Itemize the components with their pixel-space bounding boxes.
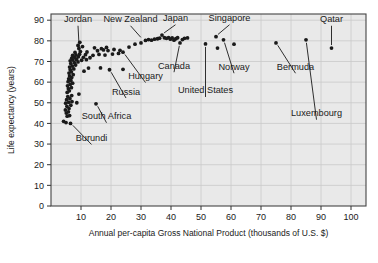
data-point <box>127 45 131 49</box>
data-point <box>176 36 180 40</box>
annotation-label: United States <box>178 85 234 95</box>
data-point <box>82 69 86 73</box>
y-tick-label: 60 <box>34 77 44 87</box>
data-point <box>64 108 68 112</box>
x-tick-label: 60 <box>226 212 236 222</box>
y-tick-label: 10 <box>34 181 44 191</box>
data-point <box>158 36 162 40</box>
data-point <box>304 38 308 42</box>
x-tick-label: 50 <box>196 212 206 222</box>
y-tick-label: 40 <box>34 119 44 129</box>
annotation-label: New Zealand <box>103 14 157 24</box>
x-tick-label: 40 <box>166 212 176 222</box>
data-point <box>118 48 122 52</box>
annotation-label: Qatar <box>320 14 343 24</box>
data-point <box>121 67 125 71</box>
data-point <box>93 46 97 50</box>
data-point <box>139 41 143 45</box>
data-point <box>112 48 116 52</box>
data-point <box>186 36 190 40</box>
annotation-label: Russia <box>112 87 141 97</box>
annotation-label: Luxembourg <box>291 108 342 118</box>
y-tick-label: 70 <box>34 57 44 67</box>
data-point <box>96 49 100 53</box>
chart-canvas: 1020304050607080901000102030405060708090… <box>0 0 378 263</box>
data-point <box>108 68 112 72</box>
data-point <box>330 46 334 50</box>
data-point <box>97 53 101 57</box>
data-point <box>71 54 75 58</box>
annotation-label: Singapore <box>209 13 251 23</box>
data-point <box>222 38 226 42</box>
data-point <box>70 86 74 90</box>
data-point <box>274 41 278 45</box>
data-point <box>204 42 208 46</box>
data-point <box>94 102 98 106</box>
data-point <box>85 58 89 62</box>
annotation-label: Canada <box>158 61 191 71</box>
data-point <box>77 92 81 96</box>
x-tick-label: 70 <box>256 212 266 222</box>
data-point <box>64 121 68 125</box>
y-tick-label: 80 <box>34 36 44 46</box>
data-point <box>69 122 73 126</box>
x-axis-title: Annual per-capita Gross National Product… <box>89 228 329 238</box>
y-tick-label: 20 <box>34 160 44 170</box>
scatter-plot-figure: 1020304050607080901000102030405060708090… <box>0 0 378 263</box>
annotation-label: Hungary <box>128 71 163 81</box>
y-tick-label: 30 <box>34 139 44 149</box>
x-tick-label: 10 <box>76 212 86 222</box>
data-point <box>216 46 220 50</box>
y-tick-label: 0 <box>39 201 44 211</box>
data-point <box>68 114 72 118</box>
data-point <box>133 42 137 46</box>
data-point <box>178 41 182 45</box>
data-point <box>232 42 236 46</box>
y-tick-label: 90 <box>34 15 44 25</box>
x-tick-label: 90 <box>316 212 326 222</box>
data-point <box>111 52 115 56</box>
y-axis-title: Life expectancy (years) <box>6 66 16 154</box>
y-tick-label: 50 <box>34 98 44 108</box>
data-point <box>214 35 218 39</box>
annotation-label: Japan <box>163 13 188 23</box>
data-point <box>73 51 77 55</box>
data-point <box>87 66 91 70</box>
data-point <box>88 56 92 60</box>
data-point <box>66 95 70 99</box>
data-point <box>103 53 107 57</box>
data-point <box>85 50 89 54</box>
annotation-label: Burundi <box>76 133 108 143</box>
data-point <box>81 45 85 49</box>
x-tick-label: 100 <box>343 212 358 222</box>
annotation-label: Jordan <box>64 14 92 24</box>
annotation-label: South Africa <box>82 111 132 121</box>
x-tick-label: 20 <box>106 212 116 222</box>
data-point <box>105 46 109 50</box>
data-point <box>100 47 104 51</box>
data-point <box>99 66 103 70</box>
x-tick-label: 30 <box>136 212 146 222</box>
data-point <box>75 101 79 105</box>
x-tick-label: 80 <box>286 212 296 222</box>
annotation-label: Norway <box>218 62 250 72</box>
data-point <box>91 53 95 57</box>
data-point <box>70 94 74 98</box>
